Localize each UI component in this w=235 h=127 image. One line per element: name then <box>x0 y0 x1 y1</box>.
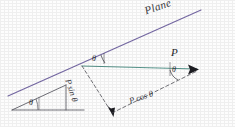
force-angle-label: θ <box>172 66 176 74</box>
vertex-angle-label: θ <box>92 55 96 63</box>
perpendicular-component-line <box>82 66 112 113</box>
perpendicular-arrow-head-icon <box>108 106 116 117</box>
reference-angle-label: θ <box>29 99 33 107</box>
reference-triangle-angle-arc <box>36 99 38 110</box>
inclined-plane-diagram: Plane P P sin θ P cos θ θ θ θ <box>0 0 235 127</box>
force-label: P <box>171 47 178 58</box>
force-vector-line <box>82 66 197 69</box>
vertex-angle-arc <box>101 55 105 63</box>
diagram-canvas <box>0 0 235 127</box>
parallel-component-line <box>112 71 197 113</box>
